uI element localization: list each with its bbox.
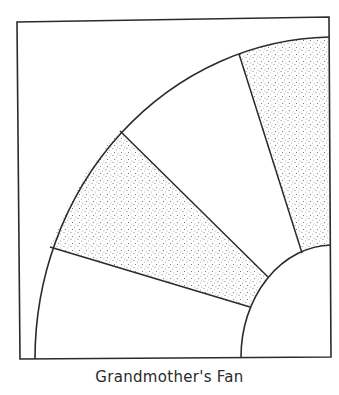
quilt-block-diagram <box>0 0 339 395</box>
blade-4-shaded <box>239 37 331 253</box>
blade-2-shaded <box>50 131 268 307</box>
diagram-caption: Grandmother's Fan <box>0 368 339 386</box>
inner-arc <box>241 245 331 357</box>
